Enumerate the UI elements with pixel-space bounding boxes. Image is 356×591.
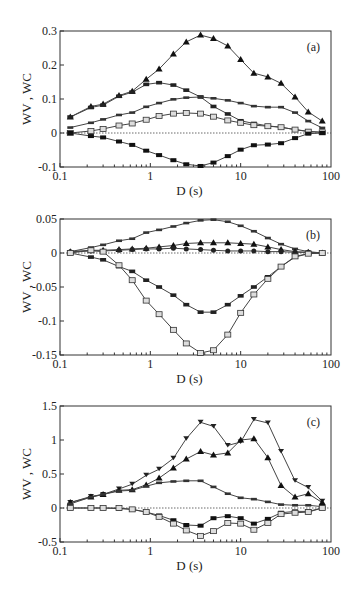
data-point-bar: [116, 490, 122, 493]
data-point-square-open: [183, 110, 189, 115]
data-point-bar: [210, 486, 216, 489]
data-point-square-open: [292, 510, 298, 515]
series-open-square: [67, 506, 325, 539]
data-point-dash-filled: [238, 294, 244, 298]
y-tick-label: 0: [51, 501, 57, 515]
data-point-bar: [129, 111, 135, 114]
data-point-bar: [319, 127, 325, 130]
x-tick-label: 100: [322, 357, 340, 371]
data-point-dash-filled: [198, 310, 204, 314]
data-point-bar: [116, 114, 122, 117]
data-point-dash-filled: [88, 106, 94, 110]
y-tick-label: -0.15: [32, 348, 57, 362]
data-point-bar: [88, 122, 94, 125]
data-point-square-filled: [170, 158, 176, 162]
y-axis-label: WV , WC: [19, 261, 34, 313]
data-point-triangle-filled: [183, 38, 190, 44]
data-point-square-open: [319, 506, 325, 511]
data-point-triangle-filled: [250, 435, 257, 441]
y-tick-label: 0.05: [36, 212, 57, 226]
data-point-bar: [238, 225, 244, 228]
y-axis-label: WV , WC: [19, 73, 34, 125]
data-point-dash-filled: [100, 103, 106, 107]
data-point-triangle-filled: [278, 482, 285, 488]
data-point-square-open: [198, 111, 204, 116]
data-point-bar: [278, 243, 284, 246]
data-point-triangle-down-filled: [183, 436, 189, 441]
data-point-dash-filled: [225, 303, 231, 307]
data-point-triangle-filled: [170, 464, 177, 470]
figure: 0.1110100-0.100.10.20.3D (s)WV , WC(a)0.…: [0, 0, 356, 591]
series-down-triangle: [67, 417, 325, 504]
chart-panel-c: 0.1110100-0.500.511.5D (s)WV , WC(c): [19, 399, 340, 573]
data-point-bar: [198, 480, 204, 483]
data-point-square-open: [225, 520, 231, 525]
data-point-bar: [305, 120, 311, 123]
data-point-triangle-down-filled: [129, 482, 135, 487]
data-point-circle-filled: [211, 248, 216, 253]
data-point-square-open: [210, 114, 216, 119]
series-open-square: [67, 110, 325, 135]
y-axis-label: WV , WC: [19, 448, 34, 500]
y-tick-label: -0.1: [38, 160, 57, 174]
data-point-bar: [292, 504, 298, 507]
data-point-square-open: [143, 510, 149, 515]
data-point-square-filled: [67, 131, 73, 135]
data-point-square-open: [225, 118, 231, 123]
series-filled-square: [67, 131, 325, 168]
data-point-circle-filled: [184, 246, 189, 251]
data-point-bar: [116, 239, 122, 242]
data-point-dash-filled: [100, 258, 106, 262]
data-point-square-filled: [183, 523, 189, 527]
data-point-square-open: [116, 506, 122, 511]
data-point-bar: [156, 102, 162, 105]
data-point-bar: [183, 96, 189, 99]
data-point-dash-filled: [183, 88, 189, 92]
data-point-square-open: [292, 127, 298, 132]
data-point-square-filled: [292, 136, 298, 140]
series-line: [70, 481, 322, 507]
data-point-dash-filled: [67, 115, 73, 119]
data-point-bar: [143, 231, 149, 234]
data-point-square-open: [143, 117, 149, 122]
data-point-square-open: [156, 312, 162, 317]
data-point-triangle-filled: [319, 118, 326, 124]
x-tick-label: 100: [322, 544, 340, 558]
data-point-bar: [100, 493, 106, 496]
data-point-square-filled: [100, 135, 106, 139]
data-point-square-filled: [251, 143, 257, 147]
data-point-square-open: [100, 249, 106, 254]
y-tick-label: -0.05: [32, 280, 57, 294]
panel-label: (c): [307, 415, 320, 429]
data-point-square-filled: [238, 516, 244, 520]
data-point-square-open: [238, 120, 244, 125]
data-point-circle-filled: [238, 248, 243, 253]
data-point-square-filled: [210, 161, 216, 165]
data-point-square-filled: [265, 143, 271, 147]
data-point-square-open: [88, 128, 94, 133]
data-point-circle-filled: [265, 249, 270, 254]
x-tick-label: 10: [235, 357, 247, 371]
data-point-square-filled: [129, 143, 135, 147]
data-point-triangle-filled: [305, 490, 312, 496]
data-point-dash-filled: [129, 270, 135, 274]
data-point-dash-filled: [183, 303, 189, 307]
data-point-square-open: [170, 521, 176, 526]
y-tick-label: 0.3: [42, 24, 57, 38]
data-point-square-open: [129, 507, 135, 512]
data-point-bar: [210, 218, 216, 221]
data-point-bar: [251, 230, 257, 233]
y-tick-label: -0.5: [38, 535, 57, 549]
data-point-bar: [143, 106, 149, 109]
data-point-bar: [100, 244, 106, 247]
data-point-square-open: [278, 125, 284, 130]
plot-frame: [60, 219, 331, 355]
data-point-dash-filled: [156, 285, 162, 289]
x-tick-label: 100: [322, 169, 340, 183]
data-point-circle-filled: [225, 248, 230, 253]
data-point-triangle-filled: [197, 32, 204, 38]
data-point-square-open: [251, 527, 257, 532]
data-point-bar: [198, 96, 204, 99]
y-tick-label: 0: [51, 246, 57, 260]
plot-frame: [60, 406, 331, 542]
